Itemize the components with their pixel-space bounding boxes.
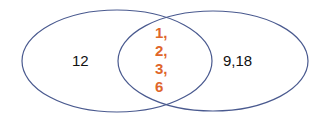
- intersection-value: 6: [155, 78, 175, 96]
- intersection-value: 1,: [155, 24, 175, 42]
- right-only-label: 9,18: [223, 52, 252, 69]
- intersection-value: 2,: [155, 42, 175, 60]
- intersection-value: 3,: [155, 60, 175, 78]
- left-set-ellipse: [22, 10, 212, 112]
- left-only-label: 12: [72, 52, 89, 69]
- intersection-values: 1, 2, 3, 6: [155, 24, 175, 96]
- right-set-ellipse: [118, 11, 308, 111]
